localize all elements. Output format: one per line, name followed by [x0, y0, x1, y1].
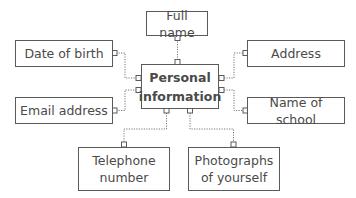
node-label-line2: number	[92, 169, 155, 186]
connector-telephone	[124, 113, 167, 143]
connector-date-of-birth	[116, 53, 136, 78]
node-label: Date of birth	[24, 45, 103, 62]
node-telephone-number: Telephone number	[78, 147, 170, 191]
connector-address	[224, 53, 244, 78]
connector-photographs	[190, 113, 234, 143]
node-label: Address	[271, 45, 321, 62]
node-date-of-birth: Date of birth	[15, 40, 113, 67]
node-label-line2: information	[139, 87, 222, 106]
node-label-line1: Photographs	[195, 152, 274, 169]
node-name-of-school: Name of school	[247, 97, 345, 124]
connector-email-address	[116, 90, 136, 111]
connector-name-of-school	[224, 90, 244, 111]
node-personal-information: Personal information	[141, 64, 219, 109]
node-full-name: Full name	[146, 11, 208, 36]
node-address: Address	[247, 40, 345, 67]
node-email-address: Email address	[15, 97, 113, 124]
node-label-line1: Personal	[139, 68, 222, 87]
node-label: Email address	[20, 102, 108, 119]
node-label: Name of school	[248, 94, 344, 128]
node-label-line1: Telephone	[92, 152, 155, 169]
node-label: Full name	[147, 7, 207, 41]
node-photographs-of-yourself: Photographs of yourself	[188, 147, 280, 191]
node-label-line2: of yourself	[195, 169, 274, 186]
